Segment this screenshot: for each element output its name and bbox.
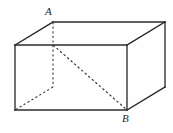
edge-top-right-slant [127,22,165,45]
edge-hidden-bottom-left-slant [15,87,53,110]
vertex-label-a: A [45,6,52,17]
space-diagonal-a-to-b [53,45,127,110]
edge-top-left-slant [15,22,53,45]
box-diagram-svg [0,0,173,133]
solid-edges-group [15,22,165,110]
vertex-label-b: B [122,113,129,124]
box-diagram-figure: A B [0,0,173,133]
hidden-edges-group [15,22,53,110]
edge-bottom-right-slant [127,87,165,110]
space-diagonal-group [53,45,127,110]
